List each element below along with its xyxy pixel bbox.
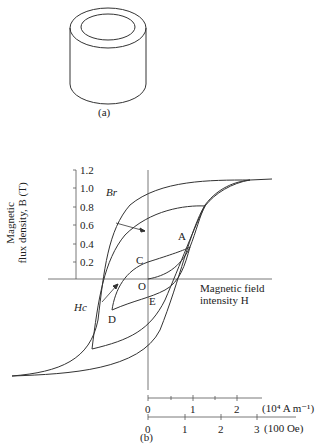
point-o-label: O — [138, 280, 146, 292]
caption-a: (a) — [98, 106, 110, 118]
y-tick: 1.2 — [80, 164, 94, 176]
hysteresis-curves — [12, 179, 272, 376]
si-tick: 0 — [145, 403, 151, 415]
point-a-label: A — [178, 230, 186, 242]
cgs-tick: 2 — [218, 423, 224, 435]
major-loop-upper — [12, 179, 272, 376]
point-d-label: D — [108, 313, 116, 325]
y-axis-label: Magnetic flux density, B (T) — [4, 158, 28, 288]
cylinder-drawing — [70, 8, 146, 104]
hc-label: Hc — [74, 301, 87, 313]
cgs-tick: 1 — [182, 423, 188, 435]
si-tick: 2 — [234, 403, 240, 415]
major-loop-lower — [12, 180, 250, 376]
loop-2-upper — [92, 206, 205, 349]
figure-canvas — [0, 0, 330, 444]
y-tick: 0.4 — [80, 238, 94, 250]
point-c-label: C — [136, 254, 143, 266]
br-label: Br — [106, 186, 117, 198]
cgs-tick: 3 — [254, 423, 260, 435]
x-axis-label-2: intensity H — [200, 294, 249, 306]
si-unit: (10⁴ A m⁻¹) — [262, 402, 314, 414]
loop-2-lower — [92, 206, 205, 349]
initial-curve — [148, 206, 205, 279]
point-e-label: E — [149, 295, 156, 307]
y-tick: 0.6 — [80, 219, 94, 231]
si-tick: 1 — [190, 403, 196, 415]
caption-b: (b) — [140, 431, 153, 443]
y-tick: 0.8 — [80, 201, 94, 213]
y-tick: 0.2 — [80, 256, 94, 268]
x-axis-label-1: Magnetic field — [200, 282, 264, 294]
y-tick: 1.0 — [80, 182, 94, 194]
cgs-unit: (100 Oe) — [264, 422, 303, 434]
